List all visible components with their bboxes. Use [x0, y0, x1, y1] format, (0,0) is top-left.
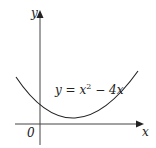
origin-label: 0 [27, 126, 35, 140]
parabola-diagram: y x 0 y = x2 − 4x [0, 0, 156, 148]
x-axis-label: x [142, 125, 149, 139]
equation-label: y = x2 − 4x [54, 82, 124, 97]
y-axis-label: y [30, 6, 38, 20]
equation-rhs: − 4x [91, 83, 123, 97]
equation-lhs: y = x [54, 83, 86, 97]
